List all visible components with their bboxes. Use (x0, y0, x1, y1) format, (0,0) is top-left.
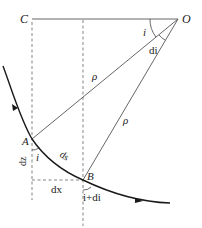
label-point-A: A (21, 135, 29, 147)
label-dz: dz (17, 156, 28, 166)
label-angle-i-top: i (143, 26, 146, 38)
label-point-O: O (182, 12, 191, 26)
radius-line-OA (32, 19, 178, 139)
angle-arc-i-plus-di-at-B (83, 187, 91, 190)
angle-arc-i-at-A (32, 148, 39, 150)
label-point-C: C (20, 12, 29, 26)
ray-curvature-diagram: C O A B i di ρ ρ dz i ds dx i+di (0, 0, 202, 228)
angle-arc-i-at-O (150, 19, 156, 37)
label-rho-OB: ρ (122, 114, 128, 126)
label-angle-di: di (149, 44, 158, 56)
label-angle-i-plus-di: i+di (83, 191, 101, 203)
label-ds: ds (58, 149, 72, 163)
angle-arc-di-at-O (159, 35, 165, 40)
label-point-B: B (87, 170, 94, 182)
label-rho-OA: ρ (91, 70, 97, 82)
label-angle-i-at-A: i (36, 151, 39, 163)
label-dx: dx (51, 183, 63, 195)
radius-line-OB (83, 19, 178, 180)
